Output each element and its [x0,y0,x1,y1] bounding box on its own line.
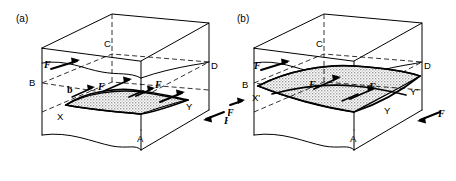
force-label-upper-left: F [43,59,51,70]
force-label-loop-left: F [308,79,316,90]
block-bottom-edges [42,110,209,150]
vertex-label-B: B [29,77,35,88]
vertex-label-B: B [242,79,248,90]
vertex-label-A: A [137,133,144,144]
force-arrow-edge-right [417,112,440,124]
vertex-label-A: A [350,133,357,144]
slipped-area-shaded [258,66,420,112]
panel-a: (a) B C D A X Y b F F F F [0,0,228,181]
force-arrow-edge-left [230,98,245,106]
force-label-edge-left: F [228,107,234,118]
loop-point-label-X-prime: X' [252,92,260,103]
loop-point-label-Y-prime: Y' [410,86,418,97]
panel-a-label: (a) [16,13,28,24]
block-top-face [254,14,422,61]
vertex-label-C: C [104,38,111,49]
panel-b: (b) B C D A X' Y' Y F F F F F [228,0,456,181]
force-label-loop-right: F [368,81,376,92]
burgers-vector-label: b [67,84,73,95]
force-label-upper-left: F [253,60,261,71]
vertex-label-C: C [316,38,323,49]
panel-a-drawing: (a) B C D A X Y b F F F F [0,0,228,181]
force-label-upper-right: F [154,79,162,90]
panel-b-drawing: (b) B C D A X' Y' Y F F F F F [228,0,456,181]
slipped-area-shaded [66,91,186,114]
vertex-label-D: D [424,60,431,71]
loop-point-label-X: X [57,111,64,122]
loop-point-label-Y: Y [186,101,193,112]
force-label-upper-mid: F [97,81,105,92]
vertex-label-D: D [211,60,218,71]
block-top-face [42,14,209,61]
force-arrow-upper-left [261,59,290,71]
force-arrow-edge-right [203,112,224,123]
panel-b-label: (b) [237,13,249,24]
loop-point-label-Y: Y [384,105,391,116]
block-bottom-edges [254,110,422,150]
dislocation-loop-figure: (a) B C D A X Y b F F F F [0,0,456,181]
force-label-edge-right: F [437,108,445,119]
